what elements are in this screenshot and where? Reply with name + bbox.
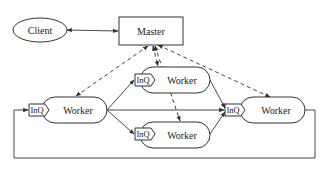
worker-left-node: InQ Worker	[29, 97, 107, 123]
client-master-edge	[67, 30, 118, 31]
master-worker-top-edge	[153, 46, 158, 66]
worker-right-label: Worker	[261, 105, 291, 116]
worker-top-label: Worker	[167, 75, 197, 86]
worker-top-node: InQ Worker	[135, 67, 210, 93]
worker-right-node: InQ Worker	[225, 97, 305, 123]
master-worker-left-edge	[76, 46, 148, 96]
inq-bottom-label: InQ	[136, 129, 149, 139]
worker-left-to-bottom-edge	[107, 110, 134, 134]
worker-left-to-top-edge	[107, 80, 134, 110]
worker-bottom-label: Worker	[167, 130, 197, 141]
client-node: Client	[13, 18, 67, 42]
inq-left-label: InQ	[30, 105, 43, 115]
master-worker-diagram: Client Master InQ Worker InQ Worker InQ …	[0, 0, 329, 169]
master-node: Master	[119, 17, 183, 45]
worker-top-to-right-edge	[210, 80, 225, 108]
worker-left-label: Worker	[63, 105, 93, 116]
worker-bottom-node: InQ Worker	[135, 122, 210, 148]
inq-right-label: InQ	[226, 105, 239, 115]
inq-top-label: InQ	[136, 75, 149, 85]
master-label: Master	[137, 26, 165, 37]
client-label: Client	[28, 25, 53, 36]
worker-bottom-to-right-edge	[210, 112, 225, 134]
